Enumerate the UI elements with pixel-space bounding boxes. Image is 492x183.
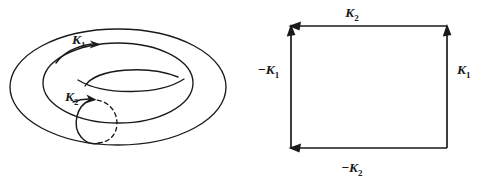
torus-label-k1-sub: 1 bbox=[81, 40, 86, 50]
torus-label-k1: K1 bbox=[71, 32, 86, 50]
torus-label-k2-sub: 2 bbox=[74, 97, 79, 107]
square-label-left-minus: − bbox=[258, 62, 266, 77]
torus-inner-rim bbox=[43, 43, 193, 123]
figure-root: K1 K2 K2 bbox=[0, 0, 492, 183]
torus-outer-outline bbox=[10, 29, 226, 145]
square-label-left-sub: 1 bbox=[275, 70, 280, 80]
square-label-top-sub: 2 bbox=[354, 13, 359, 23]
square-label-bottom-sub: 2 bbox=[358, 168, 363, 178]
math-figure-canvas: K1 K2 K2 bbox=[0, 0, 492, 183]
torus-cycle-k2 bbox=[73, 95, 117, 144]
square-label-bottom: −K2 bbox=[341, 160, 363, 178]
square-panel: K2 K1 −K2 −K1 bbox=[258, 5, 471, 178]
square-label-right: K1 bbox=[456, 62, 471, 80]
square-label-right-sub: 1 bbox=[466, 70, 471, 80]
torus-hole-upper-arc bbox=[85, 70, 178, 86]
torus-label-k2: K2 bbox=[64, 89, 79, 107]
torus-panel: K1 K2 bbox=[10, 29, 226, 145]
torus-hole-lower-arc bbox=[78, 79, 184, 92]
square-label-left: −K1 bbox=[258, 62, 280, 80]
square-label-top: K2 bbox=[344, 5, 359, 23]
square-label-bottom-minus: − bbox=[341, 160, 349, 175]
